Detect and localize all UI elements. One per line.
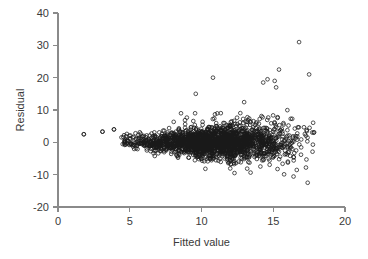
- data-point: [187, 156, 191, 160]
- data-point: [297, 40, 301, 44]
- data-point: [311, 143, 315, 147]
- data-point: [308, 126, 312, 130]
- data-point: [311, 121, 315, 125]
- data-point: [261, 81, 265, 85]
- data-point: [265, 118, 269, 122]
- data-point: [273, 79, 277, 83]
- data-point: [306, 181, 310, 185]
- data-point: [185, 116, 189, 120]
- data-point: [304, 166, 308, 170]
- data-point: [266, 116, 270, 120]
- data-point: [277, 68, 281, 72]
- data-point: [297, 143, 301, 147]
- x-axis-title: Fitted value: [173, 236, 230, 248]
- data-point: [305, 158, 309, 162]
- data-point: [294, 149, 298, 153]
- data-point: [241, 117, 245, 121]
- y-tick-label: 20: [37, 72, 49, 84]
- y-tick-label: 10: [37, 104, 49, 116]
- data-point: [213, 112, 217, 116]
- data-point: [286, 128, 290, 132]
- y-tick-label: -20: [33, 201, 49, 213]
- x-tick-label: 5: [127, 215, 133, 227]
- data-point: [242, 100, 246, 104]
- data-point: [172, 120, 176, 124]
- y-tick-label: 30: [37, 39, 49, 51]
- y-axis-title: Residual: [14, 89, 26, 132]
- data-point: [249, 171, 253, 175]
- data-point: [193, 111, 197, 115]
- data-point: [287, 124, 291, 128]
- data-point: [167, 126, 171, 130]
- data-point: [183, 118, 187, 122]
- data-point: [281, 162, 285, 166]
- y-tick-label: -10: [33, 169, 49, 181]
- data-point: [311, 150, 315, 154]
- data-point: [246, 160, 250, 164]
- data-point: [233, 171, 237, 175]
- axis-lines: [58, 13, 345, 207]
- data-point: [268, 163, 272, 167]
- y-tick-label: 40: [37, 7, 49, 19]
- x-tick-label: 10: [195, 215, 207, 227]
- data-point: [292, 175, 296, 179]
- axes-layer: [53, 13, 345, 212]
- data-point: [271, 114, 275, 118]
- scatter-plot-canvas: 403020100-10-2005101520Fitted valueResid…: [0, 0, 368, 259]
- data-point: [278, 123, 282, 127]
- data-point: [101, 130, 105, 134]
- data-point: [204, 167, 208, 171]
- data-point: [259, 165, 263, 169]
- residual-plot-figure: 403020100-10-2005101520Fitted valueResid…: [0, 0, 368, 259]
- data-point: [82, 132, 86, 136]
- data-point: [286, 108, 290, 112]
- data-point: [299, 138, 303, 142]
- x-tick-label: 20: [339, 215, 351, 227]
- data-point: [258, 117, 262, 121]
- y-tick-label: 0: [43, 136, 49, 148]
- data-point: [307, 73, 311, 77]
- data-point: [183, 122, 187, 126]
- data-point: [238, 111, 242, 115]
- data-point: [191, 119, 195, 123]
- x-tick-label: 0: [55, 215, 61, 227]
- data-point: [276, 167, 280, 171]
- x-tick-label: 15: [267, 215, 279, 227]
- data-point: [193, 158, 197, 162]
- data-point: [112, 128, 116, 132]
- data-point: [211, 76, 215, 80]
- data-point: [215, 112, 219, 116]
- data-point: [299, 153, 303, 157]
- data-point: [228, 167, 232, 171]
- data-point: [292, 151, 296, 155]
- data-point: [266, 77, 270, 81]
- data-point: [194, 92, 198, 96]
- data-point: [295, 168, 299, 172]
- data-point: [179, 111, 183, 115]
- data-points-layer: [82, 40, 316, 184]
- data-point: [245, 167, 249, 171]
- data-point: [219, 111, 223, 115]
- data-point: [305, 140, 309, 144]
- data-point: [235, 116, 239, 120]
- data-point: [282, 172, 286, 176]
- data-point: [274, 86, 278, 90]
